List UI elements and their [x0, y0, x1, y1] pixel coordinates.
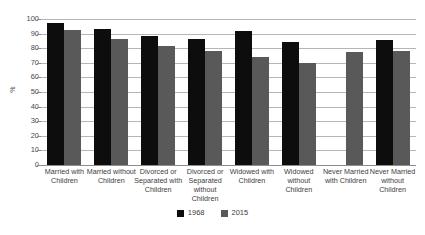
bar — [141, 36, 158, 165]
bar — [299, 63, 316, 165]
legend-item: 1968 — [177, 209, 205, 217]
y-axis-tick-label: 20 — [17, 132, 39, 140]
x-axis-category-label: Married without Children — [86, 167, 137, 185]
y-axis-tick-mark — [37, 150, 41, 151]
bar-group — [369, 19, 416, 165]
y-axis-tick-mark — [37, 121, 41, 122]
bar-group — [182, 19, 229, 165]
y-axis-tick-mark — [37, 136, 41, 137]
gridline — [41, 165, 416, 166]
x-axis-category-label: Married with Children — [39, 167, 90, 185]
x-axis-category-label: Divorced or Separated without Children — [180, 167, 231, 203]
y-axis-tick-label: 0 — [17, 161, 39, 169]
bar — [393, 51, 410, 165]
bar-group — [88, 19, 135, 165]
y-axis-tick-mark — [37, 107, 41, 108]
y-axis-tick-label: 70 — [17, 59, 39, 67]
bar — [376, 40, 393, 165]
plot-area — [41, 19, 416, 165]
bars-layer — [41, 19, 416, 165]
x-axis-category-labels: Married with ChildrenMarried without Chi… — [41, 167, 416, 213]
legend-label: 1968 — [188, 209, 205, 217]
bar-group — [135, 19, 182, 165]
bar — [111, 39, 128, 165]
legend-swatch-icon — [177, 210, 184, 217]
bar — [235, 31, 252, 165]
y-axis-tick-mark — [37, 63, 41, 64]
x-axis-category-label: Widowed with Children — [227, 167, 278, 185]
bar-group — [41, 19, 88, 165]
x-axis-category-label: Never Married with Children — [320, 167, 371, 185]
bar — [205, 51, 222, 165]
y-axis-tick-label: 30 — [17, 117, 39, 125]
y-axis-tick-label: 10 — [17, 147, 39, 155]
x-axis-category-label: Divorced or Separated with Children — [133, 167, 184, 194]
y-axis-tick-label: 50 — [17, 88, 39, 96]
y-axis-tick-label: 60 — [17, 74, 39, 82]
chart-legend: 19682015 — [0, 209, 425, 217]
bar-group — [275, 19, 322, 165]
y-axis-title: % — [9, 80, 16, 100]
bar — [346, 52, 363, 165]
legend-label: 2015 — [232, 209, 249, 217]
x-axis-category-label: Widowed without Children — [273, 167, 324, 194]
y-axis-tick-mark — [37, 92, 41, 93]
bar — [94, 29, 111, 166]
y-axis-tick-mark — [37, 165, 41, 166]
legend-swatch-icon — [221, 210, 228, 217]
y-axis-tick-labels: 0102030405060708090100 — [17, 19, 39, 165]
bar-group — [229, 19, 276, 165]
bar — [158, 46, 175, 165]
bar — [252, 57, 269, 165]
y-axis-tick-label: 90 — [17, 30, 39, 38]
y-axis-tick-label: 80 — [17, 44, 39, 52]
bar — [282, 42, 299, 165]
y-axis-tick-mark — [37, 48, 41, 49]
x-axis-category-label: Never Married without Children — [367, 167, 418, 194]
y-axis-tick-label: 40 — [17, 103, 39, 111]
bar — [64, 30, 81, 165]
bar-group — [322, 19, 369, 165]
bar — [47, 23, 64, 165]
y-axis-tick-mark — [37, 34, 41, 35]
bar — [188, 39, 205, 165]
legend-item: 2015 — [221, 209, 249, 217]
bar-chart-figure: % 0102030405060708090100 Married with Ch… — [0, 0, 425, 235]
y-axis-tick-mark — [37, 19, 41, 20]
y-axis-tick-mark — [37, 77, 41, 78]
y-axis-tick-label: 100 — [17, 15, 39, 23]
